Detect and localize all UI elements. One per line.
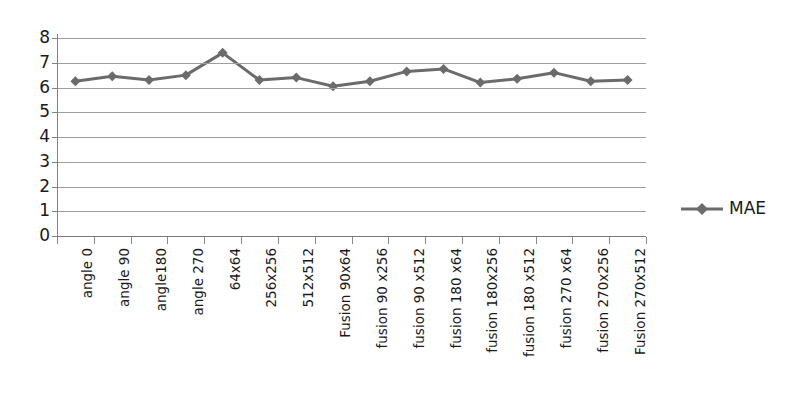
data-point-marker: fusion 90 x256: 6.25: [365, 76, 375, 86]
x-axis-tick: [352, 237, 353, 244]
x-axis-category-label: fusion 180x256: [486, 248, 500, 353]
y-axis-tick-label: 7: [28, 54, 50, 71]
legend: MAE: [681, 200, 766, 217]
gridline: [57, 88, 646, 89]
legend-marker-icon: [681, 201, 723, 217]
y-axis-tick: [52, 38, 58, 39]
x-axis-category-label: fusion 180 x512: [523, 248, 537, 357]
y-axis-tick-label: 4: [28, 128, 50, 145]
x-axis-tick: [388, 237, 389, 244]
data-point-marker: Fusion 90x64: 6.05: [328, 81, 338, 91]
gridline: [57, 112, 646, 113]
data-point-marker: angle 0: 6.25: [70, 76, 80, 86]
data-point-marker: fusion 180 x512: 6.35: [512, 74, 522, 84]
x-axis-tick: [462, 237, 463, 244]
x-axis-tick: [536, 237, 537, 244]
x-axis-category-label: Fusion 90x64: [339, 248, 353, 338]
data-point-marker: angle180: 6.3: [144, 75, 154, 85]
x-axis-tick: [94, 237, 95, 244]
x-axis-tick: [204, 237, 205, 244]
gridline: [57, 63, 646, 64]
y-axis-tick: [52, 112, 58, 113]
y-axis-tick-label: 5: [28, 103, 50, 120]
x-axis-tick: [499, 237, 500, 244]
y-axis-tick: [52, 187, 58, 188]
x-axis-tick: [425, 237, 426, 244]
y-axis-tick-label: 8: [28, 29, 50, 46]
x-axis-tick: [167, 237, 168, 244]
gridline: [57, 137, 646, 138]
x-axis-category-label: 256x256: [265, 248, 279, 308]
y-axis-tick: [52, 88, 58, 89]
y-axis-tick: [52, 137, 58, 138]
x-axis-tick: [609, 237, 610, 244]
x-axis-tick: [278, 237, 279, 244]
x-axis-category-label: Fusion 270x512: [634, 248, 648, 355]
y-axis-tick: [52, 63, 58, 64]
data-point-marker: fusion 270x256: 6.25: [586, 76, 596, 86]
gridline: [57, 211, 646, 212]
data-point-marker: Fusion 270x512: 6.3: [623, 75, 633, 85]
y-axis-tick: [52, 211, 58, 212]
data-point-marker: 512x512: 6.4: [291, 73, 301, 83]
gridline: [57, 38, 646, 39]
x-axis-tick: [572, 237, 573, 244]
x-axis-tick: [57, 237, 58, 244]
legend-label: MAE: [729, 200, 766, 217]
data-point-marker: fusion 90 x512: 6.65: [402, 66, 412, 76]
x-axis-category-label: angle180: [155, 248, 169, 311]
y-axis-tick-label: 2: [28, 178, 50, 195]
y-axis-tick: [52, 162, 58, 163]
x-axis-category-label: angle 90: [118, 248, 132, 307]
y-axis-tick-label: 3: [28, 153, 50, 170]
x-axis-category-label: 64x64: [229, 248, 243, 290]
plot-area: angle 0: 6.25angle 90: 6.45angle180: 6.3…: [57, 38, 646, 236]
x-axis-category-label: 512x512: [302, 248, 316, 308]
data-point-marker: fusion 180 x64: 6.75: [439, 64, 449, 74]
y-axis-labels: 876543210: [10, 0, 50, 413]
series-line: [75, 53, 627, 86]
y-axis-tick-label: 1: [28, 202, 50, 219]
data-point-marker: fusion 270 x64: 6.6: [549, 68, 559, 78]
y-axis-tick-label: 6: [28, 79, 50, 96]
x-axis-category-label: fusion 270 x64: [560, 248, 574, 348]
x-axis-category-label: angle 270: [192, 248, 206, 316]
x-axis-tick: [241, 237, 242, 244]
y-axis-tick-label: 0: [28, 227, 50, 244]
x-axis-category-label: angle 0: [81, 248, 95, 298]
x-axis-category-label: fusion 90 x512: [413, 248, 427, 348]
x-axis-tick: [646, 237, 647, 244]
gridline: [57, 187, 646, 188]
chart-screenshot: 876543210 angle 0: 6.25angle 90: 6.45ang…: [0, 0, 798, 413]
x-axis-category-label: fusion 270x256: [597, 248, 611, 353]
x-axis-tick: [315, 237, 316, 244]
x-axis-tick: [131, 237, 132, 244]
x-axis-category-label: fusion 90 x256: [376, 248, 390, 348]
x-axis-category-label: fusion 180 x64: [450, 248, 464, 348]
gridline: [57, 162, 646, 163]
data-point-marker: angle 90: 6.45: [107, 71, 117, 81]
data-point-marker: fusion 180x256: 6.2: [475, 78, 485, 88]
